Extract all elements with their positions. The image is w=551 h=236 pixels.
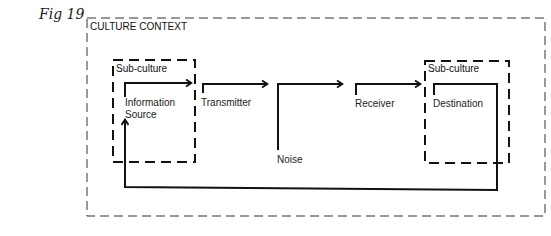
transmitter-label: Transmitter <box>201 97 251 109</box>
arrow-transmitter-to-channel <box>203 84 267 93</box>
culture-context-label: CULTURE CONTEXT <box>90 21 187 33</box>
subculture-left-label: Sub-culture <box>116 63 167 75</box>
information-source-line-2: Source <box>125 109 175 121</box>
destination-label: Destination <box>433 98 483 110</box>
communication-diagram <box>0 0 551 236</box>
receiver-label: Receiver <box>355 98 394 110</box>
information-source-line-1: Information <box>125 97 175 109</box>
arrow-source-to-transmitter <box>125 83 191 97</box>
information-source-label: Information Source <box>125 97 175 121</box>
arrow-receiver-to-destination <box>356 84 420 95</box>
arrow-noise-channel <box>278 84 342 150</box>
subculture-right-label: Sub-culture <box>428 63 479 75</box>
noise-label: Noise <box>277 154 303 166</box>
